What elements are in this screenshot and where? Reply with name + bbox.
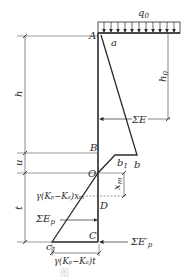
q0-label: q0 <box>138 7 149 20</box>
passive-resultant-right: ΣE′p <box>100 236 153 249</box>
point-O: O <box>88 168 96 179</box>
passive-resultant-left: ΣEp <box>35 213 97 226</box>
point-b1: b1 <box>117 157 128 170</box>
svg-text:ΣEp: ΣEp <box>35 213 55 226</box>
point-A: A <box>88 30 96 41</box>
active-pressure-line <box>52 35 137 242</box>
svg-text:xm: xm <box>111 177 124 190</box>
point-b: b <box>134 159 140 170</box>
xm-dimension: xm <box>111 171 126 198</box>
reference-lines <box>17 36 126 242</box>
gamma-t-label: γ(Kₚ−Kₐ)t <box>54 256 96 266</box>
point-D: D <box>99 200 108 211</box>
gamma-xm-label: γ(Kₚ−Kₐ)xₘ <box>36 191 84 201</box>
u-label: u <box>13 160 24 166</box>
left-dimension: h u t <box>13 34 27 244</box>
bottom-dimension: γ(Kₚ−Kₐ)t <box>50 244 101 266</box>
t-label: t <box>13 205 24 210</box>
earth-pressure-diagram: q0 h u t h0 ΣE A a B b b1 O <box>0 0 195 280</box>
point-a: a <box>111 37 117 48</box>
point-C: C <box>89 230 97 241</box>
h-label: h <box>13 91 24 97</box>
point-c1: c1 <box>46 241 56 254</box>
point-B: B <box>89 142 97 153</box>
sumE-label: ΣE <box>131 114 147 125</box>
figure-caption: 图 <box>60 268 69 278</box>
svg-text:ΣE′p: ΣE′p <box>130 236 153 249</box>
surcharge-load-q0: q0 <box>98 7 180 33</box>
